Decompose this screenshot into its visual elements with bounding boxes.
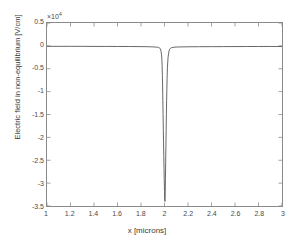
- y-tick-label: 0.5: [34, 18, 44, 26]
- exponent-value: 4: [59, 11, 62, 17]
- y-tick-label: 0: [40, 41, 44, 49]
- figure-canvas: ×104 0.50-0.5-1-1.5-2-2.5-3-3.5 11.21.41…: [0, 0, 294, 248]
- y-axis-label: Electric field in non-equilibrium [V/cm]: [13, 14, 22, 139]
- plot-svg: [47, 23, 282, 206]
- y-axis-exponent-label: ×104: [47, 11, 62, 20]
- y-tick-label: -2: [38, 134, 44, 142]
- x-tick-label: 3: [268, 210, 294, 218]
- x-axis-label: x [microns]: [0, 226, 294, 235]
- y-axis-label-wrapper: Electric field in non-equilibrium [V/cm]: [6, 0, 18, 172]
- plot-axes-box: [46, 22, 283, 207]
- data-series-line: [47, 46, 282, 201]
- y-tick-label: -0.5: [32, 64, 44, 72]
- y-tick-label: -1.5: [32, 111, 44, 119]
- exponent-prefix: ×10: [47, 13, 59, 20]
- y-tick-label: -3: [38, 180, 44, 188]
- y-tick-label: -1: [38, 87, 44, 95]
- y-tick-label: -2.5: [32, 157, 44, 165]
